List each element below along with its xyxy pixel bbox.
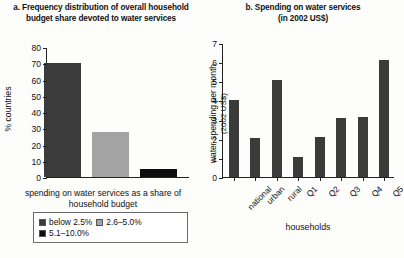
panel-b-title-line1: b. Spending on water services bbox=[208, 2, 398, 13]
x-axis-tick bbox=[320, 177, 321, 181]
y-axis-tick-label: 20 bbox=[31, 141, 41, 150]
y-axis-tick-label: 1 bbox=[212, 155, 217, 164]
panel-a: a. Frequency distribution of overall hou… bbox=[0, 0, 202, 258]
legend-item-below-2-5: below 2.5% bbox=[39, 217, 92, 227]
y-axis-tick bbox=[219, 82, 223, 83]
y-axis-tick bbox=[43, 129, 47, 130]
y-axis-tick bbox=[43, 97, 47, 98]
bar bbox=[44, 63, 81, 177]
x-axis-tick bbox=[277, 177, 278, 181]
legend-swatch-below-2-5 bbox=[39, 219, 46, 226]
y-axis-tick-label: 80 bbox=[31, 44, 41, 53]
y-axis-tick-label: 0 bbox=[36, 174, 41, 183]
panel-a-x-axis-caption: spending on water services as a share of… bbox=[10, 188, 196, 210]
y-axis-tick-label: 40 bbox=[31, 109, 41, 118]
legend-label-2-6-5-0: 2.6–5.0% bbox=[106, 217, 141, 227]
bar bbox=[229, 100, 239, 177]
panel-b-x-axis-caption: households bbox=[222, 222, 394, 233]
y-axis-tick bbox=[43, 64, 47, 65]
bar bbox=[250, 138, 260, 177]
y-axis-tick bbox=[219, 140, 223, 141]
legend-label-5-1-10-0: 5.1–10.0% bbox=[49, 228, 89, 238]
y-axis-tick bbox=[219, 159, 223, 160]
y-axis-tick bbox=[43, 162, 47, 163]
panel-a-legend: below 2.5% 2.6–5.0% 5.1–10.0% bbox=[33, 212, 188, 243]
panel-a-plot-area: 01020304050607080 bbox=[46, 48, 189, 178]
y-axis-tick-label: 5 bbox=[212, 78, 217, 87]
legend-item-2-6-5-0: 2.6–5.0% bbox=[96, 217, 141, 227]
y-axis-tick-label: 70 bbox=[31, 60, 41, 69]
y-axis-tick bbox=[219, 101, 223, 102]
legend-swatch-5-1-10-0 bbox=[39, 230, 46, 237]
y-axis-tick bbox=[43, 48, 47, 49]
y-axis-tick-label: 4 bbox=[212, 97, 217, 106]
x-axis-tick bbox=[234, 177, 235, 181]
y-axis-tick bbox=[43, 146, 47, 147]
panel-a-bars bbox=[47, 48, 189, 177]
legend-swatch-2-6-5-0 bbox=[96, 219, 103, 226]
bar bbox=[336, 118, 346, 177]
figure-container: a. Frequency distribution of overall hou… bbox=[0, 0, 404, 258]
panel-b-bars bbox=[223, 44, 394, 177]
panel-b-plot-area: 01234567 bbox=[222, 44, 394, 178]
bar bbox=[379, 60, 389, 177]
y-axis-tick-label: 50 bbox=[31, 92, 41, 101]
bar bbox=[272, 80, 282, 177]
panel-a-y-axis-label: % countries bbox=[3, 73, 13, 145]
y-axis-tick-label: 2 bbox=[212, 135, 217, 144]
y-axis-tick-label: 60 bbox=[31, 76, 41, 85]
panel-b-title-line2: (in 2002 US$) bbox=[208, 13, 398, 24]
x-axis-tick bbox=[363, 177, 364, 181]
y-axis-tick bbox=[43, 113, 47, 114]
y-axis-tick-label: 7 bbox=[212, 40, 217, 49]
bar bbox=[140, 169, 177, 177]
bar bbox=[293, 157, 303, 177]
bar bbox=[92, 132, 129, 178]
y-axis-tick-label: 0 bbox=[212, 174, 217, 183]
y-axis-tick bbox=[219, 44, 223, 45]
x-axis-tick bbox=[298, 177, 299, 181]
y-axis-tick-label: 6 bbox=[212, 59, 217, 68]
y-axis-tick bbox=[219, 121, 223, 122]
bar bbox=[358, 117, 368, 177]
legend-item-5-1-10-0: 5.1–10.0% bbox=[39, 228, 89, 238]
y-axis-tick bbox=[43, 178, 47, 179]
x-axis-tick bbox=[384, 177, 385, 181]
legend-row: below 2.5% 2.6–5.0% bbox=[39, 217, 182, 227]
panel-b-title: b. Spending on water services (in 2002 U… bbox=[202, 2, 404, 24]
y-axis-tick bbox=[219, 63, 223, 64]
y-axis-tick-label: 10 bbox=[31, 157, 41, 166]
x-axis-tick bbox=[255, 177, 256, 181]
bar bbox=[315, 137, 325, 177]
legend-label-below-2-5: below 2.5% bbox=[49, 217, 92, 227]
y-axis-tick bbox=[219, 178, 223, 179]
legend-row: 5.1–10.0% bbox=[39, 228, 182, 238]
y-axis-tick bbox=[43, 81, 47, 82]
x-axis-tick bbox=[341, 177, 342, 181]
y-axis-tick-label: 30 bbox=[31, 125, 41, 134]
panel-a-title: a. Frequency distribution of overall hou… bbox=[0, 2, 202, 24]
y-axis-tick-label: 3 bbox=[212, 116, 217, 125]
